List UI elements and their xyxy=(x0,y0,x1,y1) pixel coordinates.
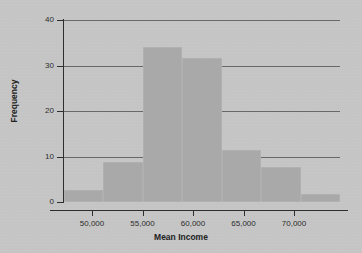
y-tick-label: 0 xyxy=(14,198,54,206)
y-axis-title: Frequency xyxy=(9,56,19,146)
y-tick-label: 30 xyxy=(14,62,54,70)
gridline-40 xyxy=(64,20,340,21)
x-tick-label: 70,000 xyxy=(264,219,324,228)
y-tick-mark xyxy=(57,202,63,203)
histogram-bar xyxy=(222,150,261,202)
y-tick-mark xyxy=(57,66,63,67)
x-axis-line xyxy=(50,210,348,211)
y-tick-mark xyxy=(57,20,63,21)
histogram-bar xyxy=(143,47,182,202)
histogram-bar xyxy=(261,167,300,202)
histogram-bar xyxy=(103,162,142,202)
x-axis-title: Mean Income xyxy=(0,232,362,242)
x-tick-mark xyxy=(143,211,144,216)
x-tick-mark xyxy=(294,211,295,216)
histogram-bar xyxy=(301,194,340,202)
x-tick-mark xyxy=(92,211,93,216)
y-tick-label: 20 xyxy=(14,107,54,115)
y-tick-label: 10 xyxy=(14,153,54,161)
y-tick-label: 40 xyxy=(14,16,54,24)
x-tick-mark xyxy=(244,211,245,216)
histogram-figure: 40 30 20 10 0 50,000 55,000 60,000 65,00… xyxy=(0,0,362,253)
histogram-bar xyxy=(182,58,221,202)
histogram-bar xyxy=(64,190,103,202)
x-tick-mark xyxy=(193,211,194,216)
y-tick-mark xyxy=(57,111,63,112)
y-tick-mark xyxy=(57,157,63,158)
plot-area xyxy=(64,20,340,202)
